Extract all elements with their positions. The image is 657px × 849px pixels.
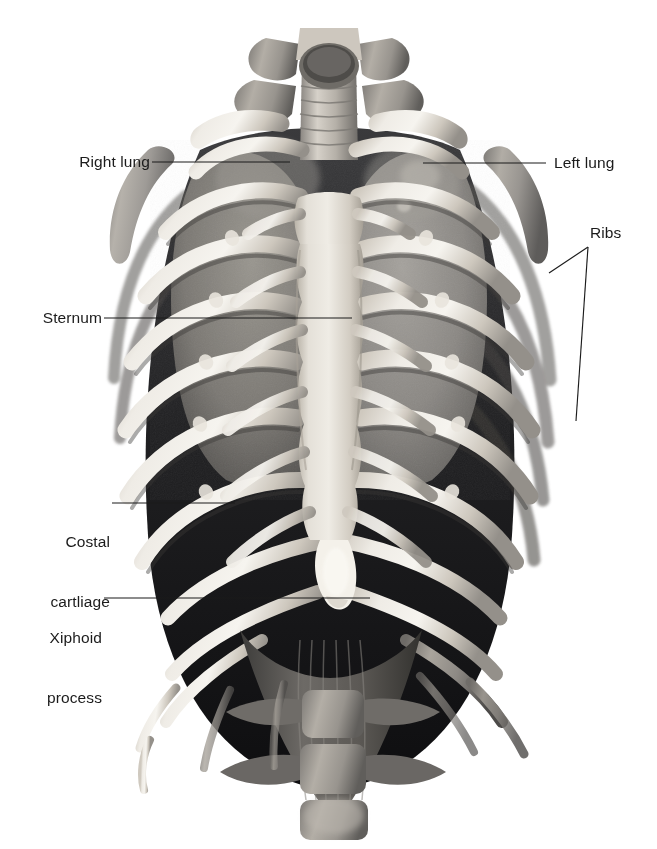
label-xiphoid-process-line1: Xiphoid xyxy=(0,628,102,648)
anatomy-figure: Right lung Left lung Ribs Sternum Costal… xyxy=(0,0,657,849)
label-xiphoid-process-line2: process xyxy=(0,688,102,708)
label-costal-cartilage-line1: Costal xyxy=(0,532,110,552)
label-right-lung: Right lung xyxy=(0,152,154,172)
label-ribs: Ribs xyxy=(590,223,621,243)
label-sternum: Sternum xyxy=(0,308,106,328)
label-left-lung: Left lung xyxy=(554,153,614,173)
label-xiphoid-process: Xiphoid process xyxy=(0,588,106,748)
